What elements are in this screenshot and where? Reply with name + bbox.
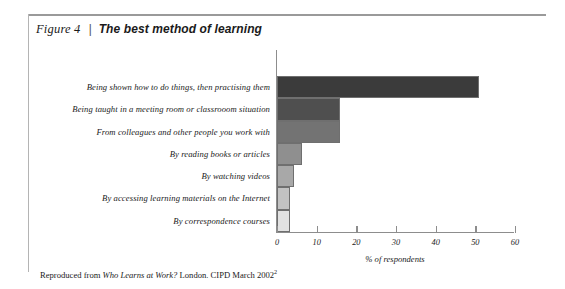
x-tick-label: 0: [257, 238, 297, 247]
y-axis-line: [276, 50, 277, 233]
x-tick-mark: [317, 226, 318, 233]
category-label: By accessing learning materials on the I…: [40, 187, 270, 209]
bar: [277, 121, 340, 143]
x-tick-mark: [396, 226, 397, 233]
source-work-title: Who Learns at Work?: [103, 270, 178, 280]
bar: [277, 143, 302, 165]
category-label: By correspondence courses: [40, 210, 270, 232]
category-label: Being shown how to do things, then pract…: [40, 76, 270, 98]
category-label: From colleagues and other people you wor…: [40, 121, 270, 143]
x-axis-title: % of respondents: [276, 254, 514, 264]
x-tick-mark: [515, 226, 516, 233]
source-note: Reproduced from Who Learns at Work? Lond…: [40, 268, 277, 280]
bar: [277, 165, 294, 187]
x-tick-mark: [475, 226, 476, 233]
x-tick-label: 20: [336, 238, 376, 247]
category-label: By reading books or articles: [40, 143, 270, 165]
x-tick-mark: [356, 226, 357, 233]
x-tick-label: 30: [376, 238, 416, 247]
x-tick-label: 50: [455, 238, 495, 247]
source-prefix: Reproduced from: [40, 270, 103, 280]
bar-series: [277, 76, 517, 232]
source-footnote-marker: 2: [274, 268, 277, 275]
x-tick-label: 60: [495, 238, 535, 247]
bar-chart: Being shown how to do things, then pract…: [0, 0, 565, 289]
figure-panel: Figure 4 | The best method of learning B…: [0, 0, 565, 289]
bar: [277, 210, 290, 232]
bar: [277, 76, 479, 98]
bar: [277, 187, 290, 209]
bar: [277, 98, 340, 120]
category-axis-labels: Being shown how to do things, then pract…: [40, 76, 270, 232]
x-tick-mark: [436, 226, 437, 233]
source-suffix: London. CIPD March 2002: [177, 270, 274, 280]
x-tick-label: 10: [297, 238, 337, 247]
x-axis-line: [276, 232, 514, 233]
category-label: By watching videos: [40, 165, 270, 187]
x-tick-mark: [277, 226, 278, 233]
x-tick-label: 40: [416, 238, 456, 247]
category-label: Being taught in a meeting room or classr…: [40, 98, 270, 120]
